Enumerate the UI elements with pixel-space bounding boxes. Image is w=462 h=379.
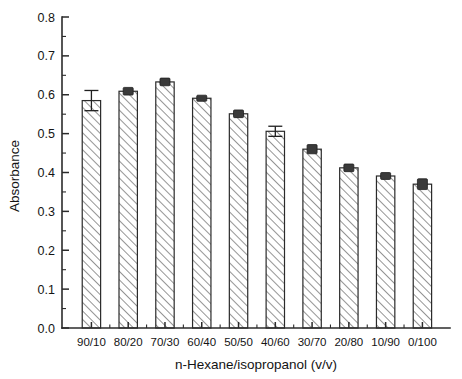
chart-canvas: 0.00.10.20.30.40.50.60.70.8 Absorbance 9… (0, 0, 462, 379)
bar-group (376, 176, 394, 328)
x-tick-label: 10/90 (371, 336, 400, 348)
y-tick-label: 0.3 (38, 205, 55, 219)
error-bar (123, 87, 133, 95)
x-tick-label: 20/80 (334, 336, 363, 348)
bar (193, 98, 211, 328)
y-tick-label: 0.7 (38, 49, 55, 63)
bar (340, 168, 358, 328)
bar-group (82, 101, 100, 328)
x-tick-label: 40/60 (261, 336, 290, 348)
x-axis: 90/1080/2070/3060/4050/5040/6030/7020/80… (62, 322, 450, 372)
y-tick-label: 0.6 (38, 88, 55, 102)
bar-group (303, 149, 321, 328)
y-tick-marks (62, 17, 69, 328)
error-bar-marker (123, 87, 133, 95)
bar (376, 176, 394, 328)
x-tick-label: 30/70 (298, 336, 327, 348)
bar (82, 101, 100, 328)
bar (156, 82, 174, 328)
bar-group (413, 184, 431, 328)
error-bar (197, 95, 207, 101)
error-bar-marker (344, 164, 354, 172)
bar (229, 114, 247, 328)
x-axis-title: n-Hexane/isopropanol (v/v) (175, 357, 337, 372)
bar-group (229, 114, 247, 328)
bar (413, 184, 431, 328)
y-tick-label: 0.8 (38, 11, 55, 25)
error-bar (344, 164, 354, 172)
bar-group (156, 82, 174, 328)
x-tick-label: 60/40 (187, 336, 216, 348)
y-tick-label: 0.0 (38, 322, 55, 336)
y-tick-labels: 0.00.10.20.30.40.50.60.70.8 (38, 11, 55, 336)
y-axis: 0.00.10.20.30.40.50.60.70.8 Absorbance (7, 11, 69, 336)
y-tick-label: 0.5 (38, 127, 55, 141)
error-bar (417, 179, 427, 190)
bar-group (119, 91, 137, 328)
x-tick-label: 70/30 (151, 336, 180, 348)
error-bar (307, 145, 317, 154)
y-tick-label: 0.1 (38, 283, 55, 297)
error-bar-marker (197, 95, 207, 101)
absorbance-bar-chart-figure: 0.00.10.20.30.40.50.60.70.8 Absorbance 9… (0, 0, 462, 379)
bar-group (340, 168, 358, 328)
plot-area (82, 78, 431, 328)
x-tick-label: 80/20 (114, 336, 143, 348)
error-bar (381, 173, 391, 180)
x-tick-label: 50/50 (224, 336, 253, 348)
y-tick-label: 0.2 (38, 244, 55, 258)
bar (266, 131, 284, 328)
error-bar-marker (160, 78, 170, 86)
bar-group (266, 131, 284, 328)
error-bar-marker (234, 110, 244, 118)
x-tick-label: 90/10 (77, 336, 106, 348)
x-tick-labels: 90/1080/2070/3060/4050/5040/6030/7020/80… (77, 336, 437, 348)
error-bar-marker (417, 179, 427, 190)
bar-group (193, 98, 211, 328)
y-axis-title: Absorbance (7, 140, 22, 212)
bar (303, 149, 321, 328)
bars-layer (82, 82, 431, 328)
bar (119, 91, 137, 328)
error-bar-marker (381, 173, 391, 180)
error-bar-marker (307, 145, 317, 154)
y-tick-label: 0.4 (38, 166, 55, 180)
x-tick-label: 0/100 (408, 336, 437, 348)
x-tick-marks (91, 322, 422, 328)
error-bar (160, 78, 170, 86)
error-bar (234, 110, 244, 118)
